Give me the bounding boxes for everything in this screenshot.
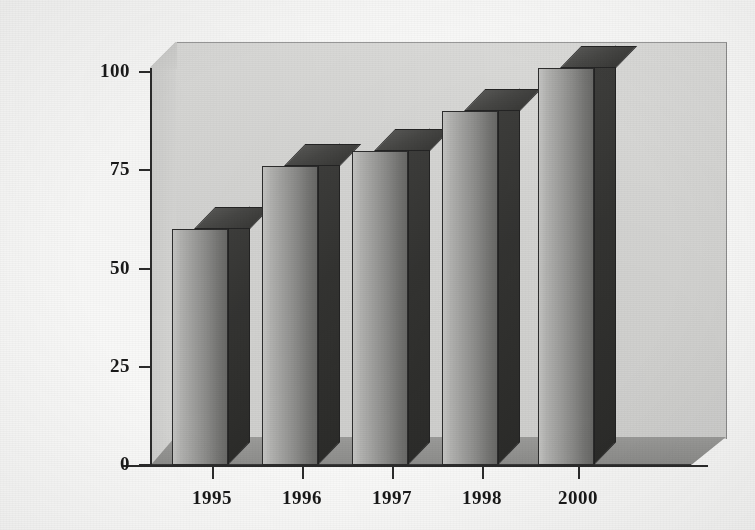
bar-2000[interactable]	[538, 46, 616, 465]
bar-side-face-1997	[408, 128, 430, 465]
x-axis-label-1996: 1996	[257, 487, 347, 509]
y-axis-label-100: 100	[0, 60, 130, 82]
x-axis-label-2000: 2000	[533, 487, 623, 509]
y-axis-label-50: 50	[0, 257, 130, 279]
bar-side-face-1998	[498, 88, 520, 465]
chart-top-bevel	[150, 42, 177, 69]
y-axis-label-0: 0	[0, 453, 130, 475]
y-axis-label-25: 25	[0, 355, 130, 377]
chart-figure: USD billions 100755025019951996199719982…	[0, 0, 755, 530]
x-axis-tick-1995	[212, 467, 214, 479]
x-axis-label-1995: 1995	[167, 487, 257, 509]
bar-side-face-2000	[594, 45, 616, 465]
y-axis-tick-25	[139, 366, 150, 368]
bar-side-face-1995	[228, 206, 250, 465]
y-axis-tick-50	[139, 268, 150, 270]
bar-1997[interactable]	[352, 129, 430, 465]
y-axis-tick-75	[139, 169, 150, 171]
y-axis-tick-0	[139, 464, 150, 466]
bar-front-face-1996	[262, 166, 318, 465]
bar-front-face-1997	[352, 151, 408, 465]
bar-front-face-2000	[538, 68, 594, 465]
x-axis-tick-1998	[482, 467, 484, 479]
bar-front-face-1995	[172, 229, 228, 465]
bar-front-face-1998	[442, 111, 498, 465]
bar-1995[interactable]	[172, 207, 250, 465]
bar-side-face-1996	[318, 143, 340, 465]
bar-1998[interactable]	[442, 89, 520, 465]
x-axis-label-1997: 1997	[347, 487, 437, 509]
x-axis-tick-2000	[578, 467, 580, 479]
y-axis-tick-100	[139, 71, 150, 73]
bar-1996[interactable]	[262, 144, 340, 465]
x-axis-tick-1997	[392, 467, 394, 479]
x-axis-tick-1996	[302, 467, 304, 479]
y-axis-line	[150, 68, 152, 466]
y-axis-label-75: 75	[0, 158, 130, 180]
x-axis-line	[122, 465, 708, 467]
x-axis-label-1998: 1998	[437, 487, 527, 509]
